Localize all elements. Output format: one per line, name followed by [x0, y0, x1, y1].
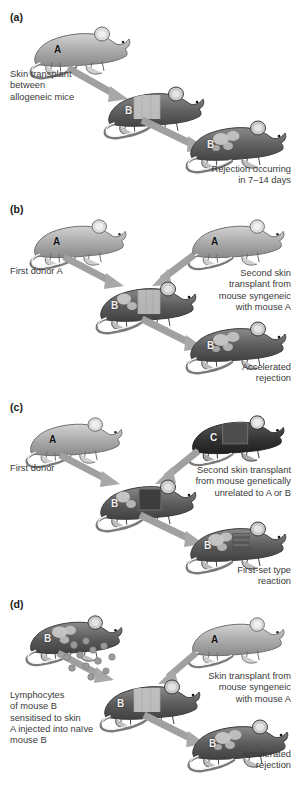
caption-b-left: First donor A [10, 266, 120, 277]
graft-patch-c-donor [223, 423, 248, 444]
caption-d-left: Lymphocytes of mouse B sensitised to ski… [10, 690, 128, 746]
caption-a-left: Skin transplant between allogeneic mice [10, 69, 130, 103]
panel-a: (a) A [0, 0, 297, 195]
mouse-b-second-donor: A [188, 211, 288, 271]
caption-d-right: Skin transplant from mouse syngeneic wit… [151, 671, 291, 705]
mouse-d-donor: A [188, 609, 288, 669]
caption-b-right: Second skin transplant from mouse syngen… [179, 268, 291, 313]
panel-a-label: (a) [10, 11, 23, 23]
panel-d-label: (d) [10, 598, 24, 610]
panel-c-label: (c) [10, 401, 23, 413]
caption-a-right: Rejection occurring in 7–14 days [141, 164, 291, 187]
mouse-c-third-party: C [188, 407, 288, 467]
caption-c-right: Second skin transplant from mouse geneti… [151, 465, 291, 499]
panel-d: (d) [0, 589, 297, 785]
panel-b: (b) A [0, 195, 297, 393]
caption-b-result: Accelerated rejection [179, 362, 291, 385]
caption-c-result: First-set type reaction [171, 565, 291, 588]
panel-b-label: (b) [10, 203, 24, 215]
caption-c-left: First donor [10, 463, 120, 474]
figure-canvas: (a) A [0, 0, 297, 785]
panel-c: (c) A [0, 393, 297, 589]
graft-patch-a [134, 95, 160, 119]
caption-d-result: Accelerated rejection [171, 749, 291, 772]
